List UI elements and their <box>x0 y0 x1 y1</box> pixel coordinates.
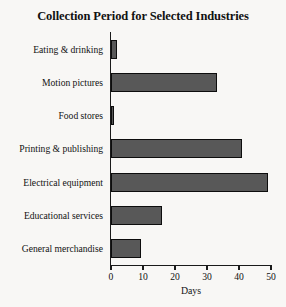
x-axis-title: Days <box>111 285 271 296</box>
bar-row <box>111 199 271 232</box>
category-label: Food stores <box>0 110 103 121</box>
x-tick-label: 50 <box>259 271 283 282</box>
category-label: Eating & drinking <box>0 44 103 55</box>
bar-row <box>111 99 271 132</box>
x-tick-mark <box>110 265 111 270</box>
category-label: Electrical equipment <box>0 177 103 188</box>
bar[interactable] <box>111 40 117 59</box>
x-tick-label: 20 <box>163 271 187 282</box>
x-tick-mark <box>206 265 207 270</box>
category-label: Educational services <box>0 210 103 221</box>
x-tick-mark <box>174 265 175 270</box>
bar[interactable] <box>111 239 141 258</box>
x-tick-mark <box>142 265 143 270</box>
category-label: Printing & publishing <box>0 143 103 154</box>
x-tick-mark <box>270 265 271 270</box>
bar[interactable] <box>111 173 268 192</box>
bar-row <box>111 33 271 66</box>
x-tick-label: 0 <box>99 271 123 282</box>
bar-row <box>111 132 271 165</box>
x-tick-label: 10 <box>131 271 155 282</box>
bar[interactable] <box>111 106 114 125</box>
plot-area <box>111 33 271 265</box>
bar-row <box>111 166 271 199</box>
category-label: Motion pictures <box>0 77 103 88</box>
bar[interactable] <box>111 139 242 158</box>
x-tick-label: 30 <box>195 271 219 282</box>
bar[interactable] <box>111 206 162 225</box>
bar-chart: Collection Period for Selected Industrie… <box>0 0 286 307</box>
x-tick-label: 40 <box>227 271 251 282</box>
category-label: General merchandise <box>0 243 103 254</box>
chart-title: Collection Period for Selected Industrie… <box>0 9 286 23</box>
x-tick-mark <box>238 265 239 270</box>
bar[interactable] <box>111 73 217 92</box>
bar-row <box>111 66 271 99</box>
bar-row <box>111 232 271 265</box>
